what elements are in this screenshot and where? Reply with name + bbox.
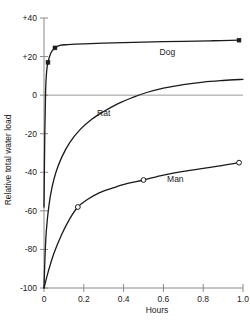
y-tick-label: +20 (23, 52, 38, 62)
x-tick-label: 0.6 (157, 294, 169, 304)
series-marker-dog (53, 46, 57, 50)
y-axis-title: Relative total water load (3, 114, 13, 205)
x-tick-label: 0.2 (78, 294, 90, 304)
x-tick-label: 0.4 (118, 294, 130, 304)
chart-series-curves (44, 40, 243, 288)
chart-series-markers (46, 38, 241, 209)
water-load-line-chart: +40+200-20-40-60-80-10000.20.40.60.81.0 … (0, 0, 250, 322)
y-tick-label: -20 (25, 129, 38, 139)
y-tick-label: -100 (20, 283, 37, 293)
x-tick-label: 0 (42, 294, 47, 304)
y-tick-label: 0 (32, 90, 37, 100)
y-tick-label: -60 (25, 206, 38, 216)
chart-figure: +40+200-20-40-60-80-10000.20.40.60.81.0 … (0, 0, 250, 322)
series-marker-dog (237, 38, 241, 42)
series-curve-rat (44, 79, 243, 288)
series-label-man: Man (167, 174, 184, 184)
series-marker-man (141, 178, 146, 183)
chart-series-labels: DogRatMan (97, 47, 184, 184)
x-tick-label: 1.0 (237, 294, 249, 304)
chart-tick-labels: +40+200-20-40-60-80-10000.20.40.60.81.0 (20, 13, 249, 304)
axis-spines (44, 18, 243, 288)
x-axis-title: Hours (146, 305, 169, 315)
series-marker-man (75, 205, 80, 210)
y-tick-label: -40 (25, 167, 38, 177)
x-tick-label: 0.8 (197, 294, 209, 304)
series-marker-man (237, 160, 242, 165)
series-label-rat: Rat (97, 108, 111, 118)
y-tick-label: +40 (23, 13, 38, 23)
y-tick-label: -80 (25, 244, 38, 254)
chart-axes (40, 18, 243, 292)
series-label-dog: Dog (160, 47, 176, 57)
series-marker-dog (46, 60, 50, 64)
